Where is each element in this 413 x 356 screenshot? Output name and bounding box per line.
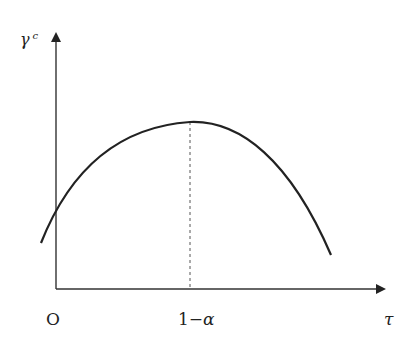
x-axis-label: τ [384, 309, 394, 329]
chart-canvas: γc O 1−α τ [0, 0, 413, 356]
gamma-curve [41, 122, 331, 255]
x-tick-label: 1−α [178, 309, 215, 329]
y-axis-label: γc [20, 30, 39, 49]
origin-label: O [46, 309, 60, 329]
